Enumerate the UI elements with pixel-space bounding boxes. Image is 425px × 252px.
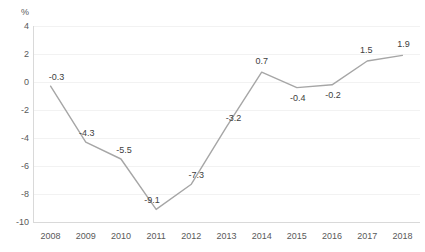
x-axis-tick-label: 2013 (216, 231, 236, 241)
x-axis-tick-label: 2011 (146, 231, 165, 241)
data-point-label: -5.5 (116, 145, 132, 155)
x-axis-tick-label: 2009 (76, 231, 96, 241)
x-axis-tick-label: 2014 (252, 231, 272, 241)
data-point-label: -0.2 (325, 90, 341, 100)
series-line (0, 0, 425, 252)
x-axis-tick-label: 2008 (41, 231, 61, 241)
data-point-label: 1.5 (360, 45, 373, 55)
x-axis-tick-label: 2016 (322, 231, 342, 241)
data-point-label: -9.1 (144, 195, 160, 205)
data-point-label: -7.3 (189, 170, 205, 180)
data-point-label: 1.9 (397, 39, 410, 49)
x-axis-tick-label: 2017 (357, 231, 377, 241)
data-point-label: -0.4 (290, 93, 306, 103)
x-axis-tick-label: 2012 (181, 231, 201, 241)
data-point-label: 0.7 (255, 56, 268, 66)
data-point-label: -4.3 (79, 128, 95, 138)
data-point-label: -0.3 (49, 72, 65, 82)
x-axis-tick-label: 2015 (287, 231, 307, 241)
x-axis-tick-label: 2018 (392, 231, 412, 241)
x-axis-tick-label: 2010 (111, 231, 131, 241)
data-point-label: -3.2 (226, 113, 242, 123)
line-chart: % 420-2-4-6-8-10 -0.3-4.3-5.5-9.1-7.3-3.… (0, 0, 425, 252)
